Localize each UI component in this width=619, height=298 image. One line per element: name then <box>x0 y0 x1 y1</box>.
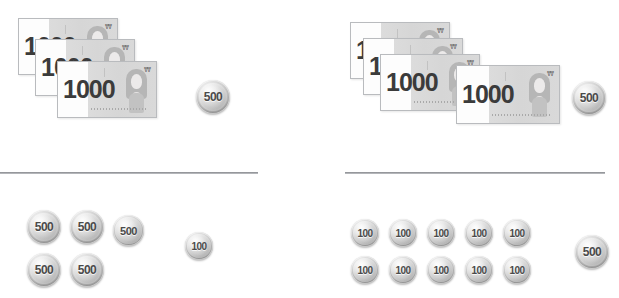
coin-100[interactable]: 100 <box>351 256 379 284</box>
coin-label: 100 <box>357 228 372 239</box>
coin-label: 100 <box>433 265 448 276</box>
won-symbol-icon: ₩ <box>450 43 457 51</box>
won-symbol-icon: ₩ <box>105 23 112 31</box>
banknote-denomination: 1000 <box>63 77 115 102</box>
won-symbol-icon: ₩ <box>437 27 444 35</box>
coin-100[interactable]: 100 <box>503 256 531 284</box>
coin-label: 500 <box>580 91 599 105</box>
coin-label: 500 <box>78 263 97 277</box>
coin-100[interactable]: 100 <box>427 256 455 284</box>
coin-label: 100 <box>509 265 524 276</box>
banknote-1000[interactable]: ₩ 1000 <box>57 61 157 118</box>
coin-label: 100 <box>471 228 486 239</box>
banknote-portrait-icon <box>126 69 147 113</box>
coin-100[interactable]: 100 <box>465 219 493 247</box>
coin-label: 500 <box>120 225 137 237</box>
won-symbol-icon: ₩ <box>122 44 129 52</box>
coin-100[interactable]: 100 <box>427 219 455 247</box>
coin-label: 500 <box>35 263 54 277</box>
coin-label: 100 <box>357 265 372 276</box>
coin-label: 100 <box>509 228 524 239</box>
money-worksheet-canvas: ₩ 1000 ₩ 1000 ₩ 1000 500 <box>0 0 619 298</box>
won-symbol-icon: ₩ <box>144 66 151 74</box>
banknote-microprint <box>91 108 148 110</box>
coin-100[interactable]: 100 <box>351 219 379 247</box>
coin-100[interactable]: 100 <box>465 256 493 284</box>
coin-label: 100 <box>395 265 410 276</box>
banknote-microprint <box>492 114 551 116</box>
coin-label: 100 <box>471 265 486 276</box>
coin-label: 100 <box>433 228 448 239</box>
coin-label: 500 <box>35 220 54 234</box>
banknote-1000[interactable]: ₩ 1000 <box>456 65 560 124</box>
coin-500[interactable]: 500 <box>575 235 609 269</box>
banknote-denomination: 1000 <box>386 70 438 95</box>
banknote-denomination: 1000 <box>462 82 514 107</box>
coin-100[interactable]: 100 <box>389 219 417 247</box>
coin-label: 100 <box>191 241 206 252</box>
coin-label: 500 <box>78 220 97 234</box>
banknote-portrait-icon <box>529 73 550 117</box>
coin-label: 500 <box>583 245 602 259</box>
coin-label: 100 <box>395 228 410 239</box>
coin-100[interactable]: 100 <box>503 219 531 247</box>
coin-100[interactable]: 100 <box>389 256 417 284</box>
won-symbol-icon: ₩ <box>547 70 554 78</box>
coin-label: 500 <box>204 90 223 104</box>
